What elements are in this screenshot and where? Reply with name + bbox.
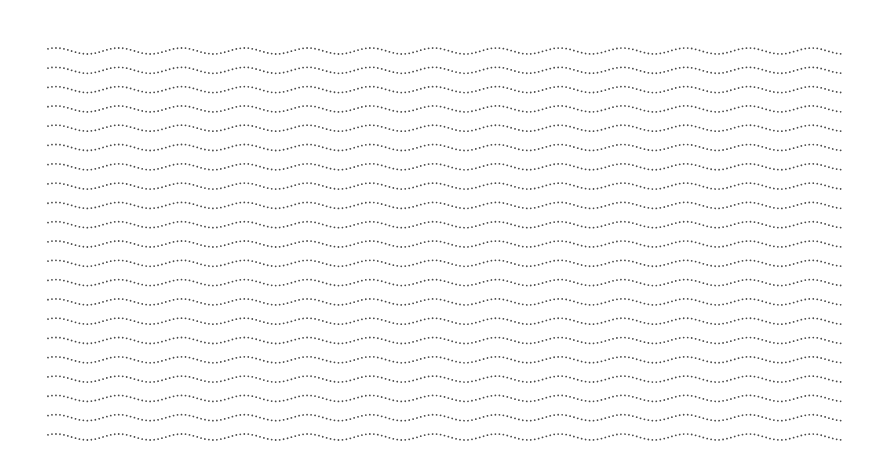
dotted-wave-row <box>48 241 843 247</box>
dotted-wave-row <box>48 318 843 324</box>
dotted-wave-row <box>48 164 843 170</box>
dotted-wave-row <box>48 299 843 305</box>
dotted-wave-row <box>48 183 843 189</box>
dotted-wave-row <box>48 67 843 73</box>
dotted-wave-row <box>48 415 843 421</box>
dotted-wave-row <box>48 106 843 112</box>
dotted-wave-row <box>48 125 843 131</box>
dotted-wave-row <box>48 357 843 363</box>
dotted-wave-row <box>48 145 843 151</box>
dotted-wave-row <box>48 434 843 440</box>
dotted-wave-row <box>48 338 843 344</box>
dotted-wave-row <box>48 260 843 266</box>
dotted-wave-row <box>48 376 843 382</box>
wavy-dotted-line-pattern <box>0 0 895 473</box>
dotted-wave-row <box>48 87 843 93</box>
dotted-wave-row <box>48 48 843 54</box>
dotted-wave-row <box>48 202 843 208</box>
dotted-wave-row <box>48 222 843 228</box>
dotted-wave-row <box>48 395 843 401</box>
dotted-wave-row <box>48 280 843 286</box>
